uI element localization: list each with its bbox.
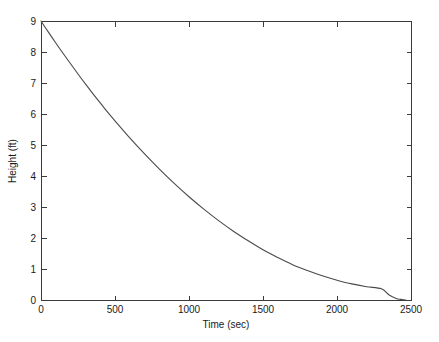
x-tick-label: 500 — [107, 304, 124, 315]
x-tick-label: 1500 — [252, 304, 275, 315]
x-tick-label: 1000 — [178, 304, 201, 315]
y-tick-label: 4 — [30, 171, 36, 182]
x-tick-label: 0 — [38, 304, 44, 315]
y-tick-label: 9 — [30, 16, 36, 27]
y-tick-label: 3 — [30, 202, 36, 213]
y-tick-label: 0 — [30, 295, 36, 306]
y-tick-label: 8 — [30, 47, 36, 58]
y-tick-label: 2 — [30, 233, 36, 244]
y-axis-title: Height (ft) — [7, 139, 18, 183]
y-tick-label: 1 — [30, 264, 36, 275]
x-tick-label: 2000 — [326, 304, 349, 315]
x-axis-title: Time (sec) — [203, 319, 250, 330]
figure-canvas: 0 500 1000 1500 2000 2500 0 1 2 3 4 5 6 … — [0, 0, 439, 342]
y-tick-label: 7 — [30, 78, 36, 89]
y-tick-label: 5 — [30, 140, 36, 151]
y-tick-label: 6 — [30, 109, 36, 120]
line-chart: 0 500 1000 1500 2000 2500 0 1 2 3 4 5 6 … — [0, 0, 439, 342]
x-tick-label: 2500 — [400, 304, 423, 315]
chart-background — [0, 0, 439, 342]
